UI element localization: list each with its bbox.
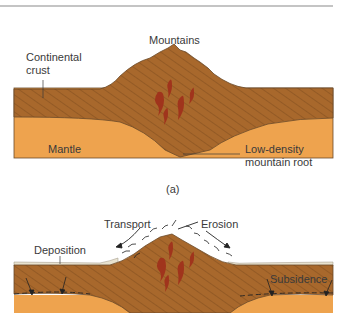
label-mountains: Mountains <box>149 34 200 46</box>
label-erosion: Erosion <box>201 218 238 230</box>
panel-b: Transport Erosion Deposition Subsidence <box>14 218 333 313</box>
mountain-root-diagram: Mountains Continental crust Mantle Low-d… <box>0 0 348 313</box>
label-continental-crust-2: crust <box>26 64 50 76</box>
label-deposition: Deposition <box>34 244 86 256</box>
panel-a: Mountains Continental crust Mantle Low-d… <box>14 34 333 168</box>
label-subsidence: Subsidence <box>270 273 328 285</box>
label-transport: Transport <box>104 218 151 230</box>
caption-a: (a) <box>166 183 179 195</box>
label-root-2: mountain root <box>245 156 312 168</box>
label-mantle: Mantle <box>48 143 81 155</box>
label-root-1: Low-density <box>245 143 304 155</box>
label-continental-crust-1: Continental <box>26 51 82 63</box>
